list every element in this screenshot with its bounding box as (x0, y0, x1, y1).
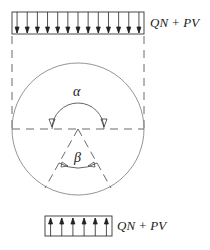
side-dashed-lines (12, 36, 144, 129)
arrowhead-icon (82, 218, 86, 224)
arrowhead-icon (117, 27, 121, 33)
arrowhead-icon (71, 218, 75, 224)
alpha-angle-arc (49, 103, 107, 129)
arrowhead-icon (15, 27, 19, 33)
arrowhead-icon (56, 27, 60, 33)
arrowhead-icon (104, 218, 108, 224)
arrowhead-icon (49, 218, 53, 224)
arrowhead-icon (46, 27, 50, 33)
arrowhead-icon (35, 27, 39, 33)
load-diagram (0, 0, 210, 250)
top-load-box (12, 12, 144, 34)
arrowhead-icon (60, 218, 64, 224)
beta-label: β (74, 150, 81, 166)
bottom-load-box (45, 216, 112, 236)
arrowhead-icon (127, 27, 131, 33)
arrowhead-icon (106, 27, 110, 33)
arrowhead-icon (93, 218, 97, 224)
arrowhead-icon (25, 27, 29, 33)
arrowhead-icon (66, 27, 70, 33)
bottom-load-label: QN + PV (117, 218, 166, 234)
arrowhead-icon (137, 27, 141, 33)
arrowhead-icon (96, 27, 100, 33)
arrowhead-icon (86, 27, 90, 33)
alpha-label: α (73, 84, 80, 100)
arrowhead-icon (76, 27, 80, 33)
top-load-label: QN + PV (150, 15, 199, 31)
